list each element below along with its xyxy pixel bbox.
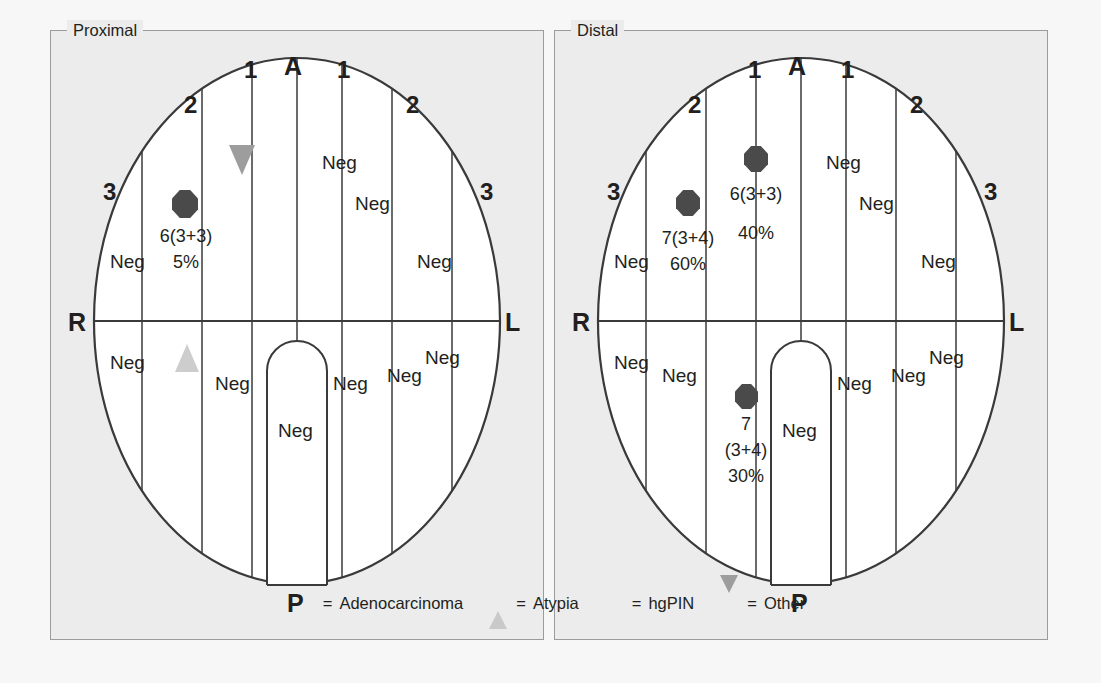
proximal-zone-l1: 1 (337, 56, 350, 84)
distal-neg-l3-upper: Neg (921, 251, 956, 273)
distal-neg-l1-upper: Neg (826, 152, 861, 174)
proximal-posterior-label: P (287, 589, 304, 618)
proximal-neg-l2-lower: Neg (387, 365, 422, 387)
distal-adenocarcinoma-octagon-icon-r1-lower (735, 384, 758, 409)
proximal-zone-r1: 1 (244, 56, 257, 84)
proximal-left-label: L (505, 308, 520, 337)
distal-involvement-percent-r1-lower: 30% (712, 466, 780, 487)
proximal-neg-r1-lower: Neg (215, 373, 250, 395)
proximal-atypia-triangle-up-icon (175, 344, 199, 372)
distal-neg-r3-lower: Neg (614, 352, 649, 374)
distal-neg-r3-upper: Neg (614, 251, 649, 273)
distal-neg-urethra-lower: Neg (782, 420, 817, 442)
proximal-neg-l1-lower: Neg (333, 373, 368, 395)
distal-neg-l1-lower: Neg (837, 373, 872, 395)
distal-zone-l2: 2 (910, 91, 923, 119)
distal-posterior-label: P (791, 589, 808, 618)
proximal-anterior-label: A (284, 52, 302, 81)
prostate-map-drawing (0, 0, 1101, 683)
proximal-gleason-score: 6(3+3) (150, 226, 222, 247)
distal-neg-l2-upper: Neg (859, 193, 894, 215)
proximal-zone-l3: 3 (480, 178, 493, 206)
distal-neg-l2-lower: Neg (891, 365, 926, 387)
proximal-involvement-percent: 5% (150, 252, 222, 273)
proximal-neg-l3-upper: Neg (417, 251, 452, 273)
distal-gleason-pattern-r1-lower: (3+4) (712, 440, 780, 461)
distal-right-label: R (572, 308, 590, 337)
distal-zone-r3: 3 (607, 178, 620, 206)
proximal-zone-r2: 2 (184, 91, 197, 119)
distal-gland-outline (598, 0, 1004, 683)
distal-gleason-score-r2: 7(3+4) (652, 228, 724, 249)
proximal-zone-r3: 3 (103, 178, 116, 206)
proximal-neg-urethra-lower: Neg (278, 420, 313, 442)
distal-zone-l3: 3 (984, 178, 997, 206)
distal-gleason-score-r1: 6(3+3) (720, 184, 792, 205)
distal-zone-r2: 2 (688, 91, 701, 119)
proximal-neg-l3-lowest: Neg (425, 347, 460, 369)
proximal-neg-l2-upper: Neg (355, 193, 390, 215)
proximal-neg-r3-upper: Neg (110, 251, 145, 273)
distal-involvement-percent-r2: 60% (652, 254, 724, 275)
proximal-right-label: R (68, 308, 86, 337)
distal-neg-l3-lowest: Neg (929, 347, 964, 369)
distal-zone-r1: 1 (748, 56, 761, 84)
proximal-neg-l1-upper: Neg (322, 152, 357, 174)
distal-left-label: L (1009, 308, 1024, 337)
proximal-neg-r3-lower: Neg (110, 352, 145, 374)
distal-neg-r2-lower: Neg (662, 365, 697, 387)
distal-involvement-percent-r1: 40% (720, 223, 792, 244)
proximal-gland-outline (94, 0, 500, 683)
distal-gleason-primary-r1-lower: 7 (712, 414, 780, 435)
distal-anterior-label: A (788, 52, 806, 81)
proximal-zone-l2: 2 (406, 91, 419, 119)
proximal-other-triangle-down-icon (229, 145, 255, 175)
distal-zone-l1: 1 (841, 56, 854, 84)
figure-canvas: Proximal Distal (0, 0, 1101, 683)
